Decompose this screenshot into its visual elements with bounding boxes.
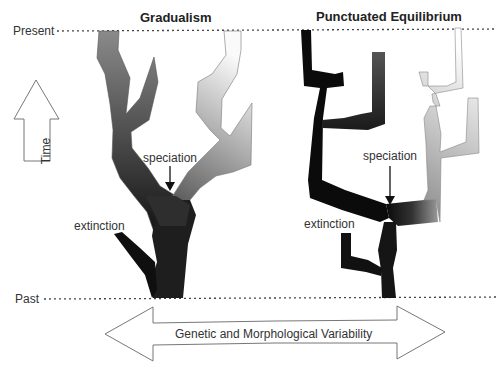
present-line bbox=[57, 29, 497, 31]
present-label: Present bbox=[13, 24, 54, 38]
evolution-models-diagram: Gradualism Punctuated Equilibrium Presen… bbox=[0, 0, 497, 374]
punctuated-title: Punctuated Equilibrium bbox=[316, 9, 462, 24]
gradualism-right-lineage bbox=[170, 31, 252, 204]
gradualism-speciation-arrowhead-icon bbox=[165, 182, 175, 191]
pe-right-lineage bbox=[419, 28, 479, 222]
time-label: Time bbox=[39, 131, 53, 171]
diagram-canvas bbox=[0, 0, 497, 374]
pe-connector bbox=[386, 198, 438, 226]
pe-speciation-label: speciation bbox=[363, 149, 417, 163]
variability-label: Genetic and Morphological Variability bbox=[175, 327, 372, 341]
pe-mid-lineage bbox=[322, 52, 385, 130]
past-label: Past bbox=[15, 292, 39, 306]
gradualism-extinction-label: extinction bbox=[74, 219, 125, 233]
pe-extinction-label: extinction bbox=[304, 217, 355, 231]
gradualism-extinct-lineage bbox=[114, 232, 157, 298]
gradualism-speciation-label: speciation bbox=[143, 151, 197, 165]
past-line bbox=[44, 297, 497, 299]
pe-extinct-lineage bbox=[341, 233, 382, 276]
gradualism-title: Gradualism bbox=[140, 10, 212, 25]
pe-trunk bbox=[378, 222, 397, 298]
